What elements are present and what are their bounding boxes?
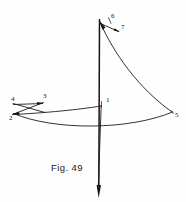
vertex-label-3: 3 [43, 93, 47, 100]
vertex-label-7: 7 [121, 24, 125, 31]
vertex-label-5: 5 [175, 112, 179, 119]
segment-7-arrowhead [114, 28, 120, 32]
figure-canvas: 1 2 3 4 5 6 7 Fig. 49 [0, 0, 186, 202]
vertex-label-1: 1 [106, 97, 110, 104]
curve-2-to-5 [14, 112, 173, 126]
curve-6-to-5 [100, 22, 172, 112]
figure-caption: Fig. 49 [51, 162, 83, 173]
vertex-label-6: 6 [111, 13, 115, 20]
vertex-label-2: 2 [9, 115, 13, 122]
vertex-label-4: 4 [11, 96, 15, 103]
axis-bottom-arrowhead [97, 185, 101, 198]
figure-drawing [0, 0, 186, 202]
